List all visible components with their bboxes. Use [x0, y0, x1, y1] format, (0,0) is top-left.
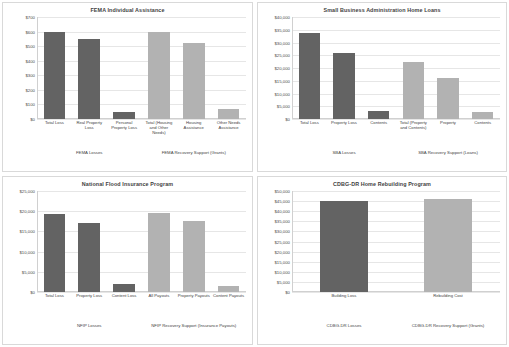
chart-panel-sba: Small Business Administration Home Loans…: [255, 0, 509, 174]
x-axis-group-label: NFIP Recovery Support (Insurance Payouts…: [142, 322, 247, 340]
x-tick-label: Contents: [361, 119, 396, 147]
y-tick-label: $300: [25, 73, 35, 78]
bar[interactable]: [218, 109, 240, 119]
bar[interactable]: [437, 78, 458, 119]
y-tick-label: $15,000: [274, 78, 290, 83]
x-tick-label: Property Payouts: [176, 292, 211, 320]
x-tick-label: Rebuilding Cost: [396, 292, 500, 320]
bar-slot: [141, 191, 176, 292]
y-tick-label: $35,000: [274, 219, 290, 224]
y-tick-label: $0: [285, 117, 290, 122]
x-axis-group-label: SBA Losses: [292, 149, 396, 167]
x-axis-labels-cdbg: Building LossRebuilding Cost: [292, 292, 500, 320]
bar[interactable]: [44, 32, 66, 119]
bar-slot: [141, 17, 176, 119]
x-tick-label: Property Loss: [327, 119, 362, 147]
x-axis-group-label: SBA Recovery Support (Loans): [396, 149, 500, 167]
y-tick-label: $40,000: [274, 15, 290, 20]
chart-frame-sba: Small Business Administration Home Loans…: [257, 2, 507, 172]
bar[interactable]: [78, 39, 100, 119]
bar-slot: [396, 191, 500, 292]
chart-panel-fema: FEMA Individual Assistance $700$600$500$…: [0, 0, 255, 174]
bar[interactable]: [320, 201, 368, 292]
chart-title-cdbg: CDBG-DR Home Rebuilding Program: [258, 181, 506, 187]
plot-area-sba: $40,000$35,000$30,000$25,000$20,000$15,0…: [292, 17, 500, 119]
chart-panel-nfip: National Flood Insurance Program $25,000…: [0, 174, 255, 347]
x-tick-label: Content Loss: [107, 292, 142, 320]
bar[interactable]: [424, 199, 472, 292]
x-tick-label: Total (Housing and Other Needs): [141, 119, 176, 147]
x-tick-label: Property Loss: [72, 292, 107, 320]
bar-slot: [72, 191, 107, 292]
bar[interactable]: [183, 221, 205, 293]
x-axis-group-labels-cdbg: CDBG-DR LossesCDBG-DR Recovery Support (…: [292, 322, 500, 340]
y-tick-label: $25,000: [274, 53, 290, 58]
x-tick-label: Content Payouts: [211, 292, 246, 320]
y-tick-label: $5,000: [22, 269, 35, 274]
x-tick-label: Property: [431, 119, 466, 147]
y-tick-label: $0: [30, 290, 35, 295]
chart-title-sba: Small Business Administration Home Loans: [258, 7, 506, 13]
bar-slot: [361, 17, 396, 119]
bar[interactable]: [148, 213, 170, 292]
chart-title-fema: FEMA Individual Assistance: [3, 7, 252, 13]
bar-slot: [211, 17, 246, 119]
bar[interactable]: [472, 112, 493, 119]
y-tick-label: $30,000: [274, 229, 290, 234]
y-tick-label: $20,000: [274, 249, 290, 254]
x-axis-group-label: FEMA Losses: [37, 149, 142, 167]
bar[interactable]: [148, 32, 170, 119]
x-tick-label: Total Loss: [37, 119, 72, 147]
x-axis-labels-sba: Total LossProperty LossContentsTotal (Pr…: [292, 119, 500, 147]
x-axis-group-label: NFIP Losses: [37, 322, 142, 340]
bar[interactable]: [113, 284, 135, 292]
bar[interactable]: [44, 214, 66, 292]
y-tick-label: $45,000: [274, 199, 290, 204]
bar[interactable]: [183, 43, 205, 119]
chart-figure-grid: FEMA Individual Assistance $700$600$500$…: [0, 0, 509, 347]
chart-frame-fema: FEMA Individual Assistance $700$600$500$…: [2, 2, 253, 172]
chart-frame-cdbg: CDBG-DR Home Rebuilding Program $50,000$…: [257, 176, 507, 345]
bar[interactable]: [403, 62, 424, 119]
x-axis-labels-fema: Total LossReal Property LossPersonal Pro…: [37, 119, 246, 147]
chart-frame-nfip: National Flood Insurance Program $25,000…: [2, 176, 253, 345]
plot-area-fema: $700$600$500$400$300$200$100$0: [37, 17, 246, 119]
x-axis-group-label: CDBG-DR Recovery Support (Grants): [396, 322, 500, 340]
bar-slot: [292, 191, 396, 292]
plot-area-cdbg: $50,000$45,000$40,000$35,000$30,000$25,0…: [292, 191, 500, 292]
x-axis-group-label: FEMA Recovery Support (Grants): [142, 149, 247, 167]
bar[interactable]: [368, 111, 389, 119]
bar[interactable]: [299, 33, 320, 119]
bar-slot: [37, 17, 72, 119]
x-tick-label: All Payouts: [141, 292, 176, 320]
chart-panel-cdbg: CDBG-DR Home Rebuilding Program $50,000$…: [255, 174, 509, 347]
bar-slot: [176, 17, 211, 119]
x-tick-label: Total Loss: [292, 119, 327, 147]
bar[interactable]: [113, 112, 135, 119]
y-tick-label: $10,000: [274, 269, 290, 274]
bar-series-cdbg: [292, 191, 500, 292]
x-axis-group-labels-nfip: NFIP LossesNFIP Recovery Support (Insura…: [37, 322, 246, 340]
x-axis-group-label: CDBG-DR Losses: [292, 322, 396, 340]
y-tick-label: $100: [25, 102, 35, 107]
bar-series-nfip: [37, 191, 246, 292]
bar-series-sba: [292, 17, 500, 119]
bar-slot: [431, 17, 466, 119]
y-tick-label: $25,000: [274, 239, 290, 244]
y-tick-label: $15,000: [274, 259, 290, 264]
y-tick-label: $20,000: [274, 66, 290, 71]
y-tick-label: $10,000: [19, 249, 35, 254]
x-tick-label: Personal Property Loss: [107, 119, 142, 147]
y-tick-label: $30,000: [274, 40, 290, 45]
x-axis-group-labels-fema: FEMA LossesFEMA Recovery Support (Grants…: [37, 149, 246, 167]
y-tick-label: $200: [25, 87, 35, 92]
y-tick-label: $700: [25, 15, 35, 20]
y-tick-label: $400: [25, 58, 35, 63]
y-tick-label: $5,000: [277, 279, 290, 284]
y-tick-label: $40,000: [274, 209, 290, 214]
x-axis-labels-nfip: Total LossProperty LossContent LossAll P…: [37, 292, 246, 320]
bar-slot: [176, 191, 211, 292]
bar[interactable]: [78, 223, 100, 292]
bar[interactable]: [333, 53, 354, 119]
y-tick-label: $600: [25, 29, 35, 34]
